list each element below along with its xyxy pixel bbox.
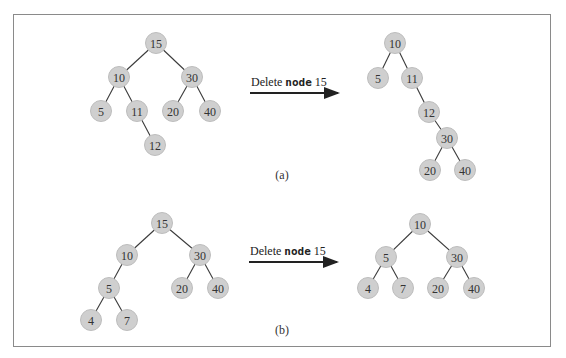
- node-key-label: 40: [204, 105, 216, 119]
- node-key-label: 30: [451, 251, 463, 265]
- tree-node-10: 10: [385, 33, 406, 54]
- tree-node-12: 12: [145, 135, 166, 156]
- tree-node-5: 5: [368, 68, 389, 89]
- tree-node-40: 40: [455, 160, 476, 181]
- panel-a-arrow: Delete node 15: [250, 75, 338, 93]
- tree-node-11: 11: [402, 68, 423, 89]
- node-key-label: 11: [131, 105, 143, 119]
- tree-node-7: 7: [117, 310, 138, 331]
- panel-b-arrow-label: Delete node 15: [250, 244, 326, 258]
- tree-node-7: 7: [393, 278, 414, 299]
- arrow-label-bold: node: [284, 245, 311, 258]
- tree-node-10: 10: [117, 245, 138, 266]
- arrow-label-suffix: 15: [312, 75, 327, 89]
- tree-node-11: 11: [127, 101, 148, 122]
- panel-a-tree-before: 151030511204012: [91, 33, 221, 156]
- tree-node-40: 40: [208, 278, 229, 299]
- tree-node-30: 30: [190, 245, 211, 266]
- node-key-label: 10: [389, 37, 401, 51]
- tree-node-15: 15: [152, 213, 173, 234]
- panel-b-caption: (b): [275, 323, 289, 337]
- node-key-label: 12: [149, 139, 161, 153]
- node-key-label: 20: [176, 282, 188, 296]
- tree-node-20: 20: [163, 101, 184, 122]
- node-key-label: 4: [88, 314, 94, 328]
- node-key-label: 5: [383, 251, 389, 265]
- tree-node-30: 30: [447, 247, 468, 268]
- node-key-label: 40: [459, 164, 471, 178]
- arrow-label-suffix: 15: [311, 244, 326, 258]
- arrow-label-prefix: Delete: [250, 244, 284, 258]
- panel-b-arrow: Delete node 15: [249, 244, 337, 262]
- node-key-label: 11: [406, 72, 418, 86]
- node-key-label: 20: [432, 282, 444, 296]
- tree-node-30: 30: [437, 128, 458, 149]
- node-key-label: 15: [156, 217, 168, 231]
- panel-b-tree-after: 10530472040: [358, 214, 485, 299]
- arrow-label-prefix: Delete: [251, 75, 285, 89]
- node-key-label: 30: [186, 71, 198, 85]
- node-key-label: 4: [365, 282, 371, 296]
- bst-deletion-diagram: Delete node 15 (a) Delete node 15 (b) 15…: [0, 0, 566, 358]
- node-key-label: 7: [400, 282, 406, 296]
- tree-node-20: 20: [420, 160, 441, 181]
- node-key-label: 10: [121, 249, 133, 263]
- tree-node-5: 5: [99, 278, 120, 299]
- panel-a-caption: (a): [275, 168, 288, 182]
- node-key-label: 12: [423, 106, 435, 120]
- panel-a-tree-after: 1051112302040: [368, 33, 476, 181]
- node-key-label: 20: [424, 164, 436, 178]
- tree-node-40: 40: [464, 278, 485, 299]
- node-key-label: 5: [106, 282, 112, 296]
- panel-b-tree-before: 1510305204047: [81, 213, 229, 331]
- tree-node-20: 20: [172, 278, 193, 299]
- panel-a-arrow-label: Delete node 15: [251, 75, 327, 89]
- tree-node-4: 4: [81, 310, 102, 331]
- node-key-label: 10: [113, 71, 125, 85]
- node-key-label: 30: [441, 132, 453, 146]
- node-key-label: 15: [150, 37, 162, 51]
- node-key-label: 7: [124, 314, 130, 328]
- tree-node-4: 4: [358, 278, 379, 299]
- node-key-label: 5: [98, 105, 104, 119]
- tree-node-20: 20: [428, 278, 449, 299]
- tree-node-5: 5: [376, 247, 397, 268]
- node-key-label: 5: [375, 72, 381, 86]
- tree-node-10: 10: [410, 214, 431, 235]
- tree-node-12: 12: [419, 102, 440, 123]
- tree-node-10: 10: [109, 67, 130, 88]
- node-key-label: 10: [414, 218, 426, 232]
- tree-node-30: 30: [182, 67, 203, 88]
- node-key-label: 40: [468, 282, 480, 296]
- node-key-label: 20: [167, 105, 179, 119]
- arrow-label-bold: node: [285, 76, 312, 89]
- tree-node-40: 40: [200, 101, 221, 122]
- node-key-label: 30: [194, 249, 206, 263]
- node-key-label: 40: [212, 282, 224, 296]
- tree-node-5: 5: [91, 101, 112, 122]
- tree-node-15: 15: [146, 33, 167, 54]
